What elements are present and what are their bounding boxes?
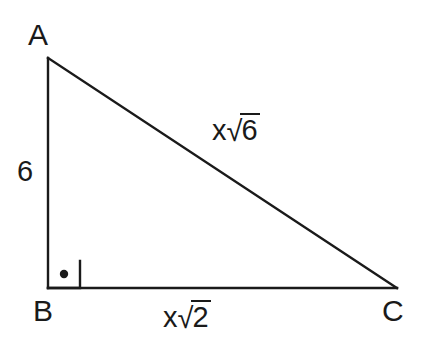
side-length-label-ab: 6 xyxy=(17,157,33,186)
radical-expression-ac: x√6 xyxy=(212,113,260,145)
radicand-bc: 2 xyxy=(191,300,210,332)
right-angle-dot-icon xyxy=(60,270,68,278)
side-length-label-ac: x√6 xyxy=(212,113,260,145)
radical-coefficient-ac: x xyxy=(212,114,227,146)
vertex-label-a: A xyxy=(28,20,48,50)
radical-coefficient-bc: x xyxy=(163,301,178,333)
side-length-label-bc: x√2 xyxy=(163,300,211,332)
radicand-ac: 6 xyxy=(240,113,259,145)
triangle-drawing xyxy=(0,0,432,344)
radical-sign-icon-bc: √ xyxy=(178,304,194,333)
geometry-figure: A B C 6 x√6 x√2 xyxy=(0,0,432,344)
radical-expression-bc: x√2 xyxy=(163,300,211,332)
radical-sign-icon-ac: √ xyxy=(227,117,243,146)
vertex-label-c: C xyxy=(382,296,404,326)
vertex-label-b: B xyxy=(33,296,53,326)
hypotenuse-ac-line xyxy=(48,58,397,288)
